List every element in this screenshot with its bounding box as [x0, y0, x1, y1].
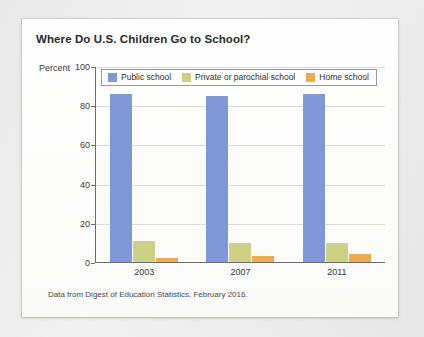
bar [206, 96, 228, 262]
bar [133, 241, 155, 262]
y-tick-label: 40 [80, 180, 90, 190]
chart-card: Where Do U.S. Children Go to School? Per… [22, 19, 398, 317]
chart-title: Where Do U.S. Children Go to School? [36, 33, 250, 45]
y-tick-label: 20 [80, 219, 90, 229]
bar [156, 258, 178, 262]
y-axis-title: Percent [39, 63, 70, 73]
legend-swatch-icon [182, 73, 191, 82]
y-tick-mark [91, 263, 95, 264]
bar [303, 94, 325, 262]
legend-item: Private or parochial school [182, 72, 295, 82]
legend-item: Public school [108, 72, 171, 82]
bar [252, 256, 274, 262]
bar [229, 243, 251, 263]
legend-label: Private or parochial school [195, 72, 295, 82]
y-tick-label: 80 [80, 101, 90, 111]
y-tick-mark [91, 106, 95, 107]
y-tick-mark [91, 224, 95, 225]
y-tick-mark [91, 67, 95, 68]
bar-group: 2003 [96, 67, 192, 262]
chart-legend: Public schoolPrivate or parochial school… [101, 69, 377, 86]
y-tick-label: 60 [80, 140, 90, 150]
y-tick-mark [91, 185, 95, 186]
x-tick-label: 2007 [230, 267, 250, 277]
legend-swatch-icon [306, 73, 315, 82]
bar [110, 94, 132, 262]
x-tick-label: 2003 [134, 267, 154, 277]
x-tick-label: 2011 [327, 267, 346, 277]
legend-swatch-icon [108, 73, 117, 82]
y-tick-mark [91, 145, 95, 146]
x-axis-line [95, 262, 385, 263]
y-tick-label: 0 [85, 258, 90, 268]
y-tick-label: 100 [75, 62, 90, 72]
bar-groups: 200320072011 [96, 67, 385, 262]
bar [326, 243, 348, 263]
bar [349, 254, 371, 262]
bar-group: 2011 [289, 67, 385, 262]
legend-label: Home school [319, 72, 369, 82]
legend-item: Home school [306, 72, 369, 82]
plot-area: 020406080100 200320072011 [95, 67, 385, 263]
source-note: Data from Digest of Education Statistics… [48, 290, 248, 299]
legend-label: Public school [121, 72, 171, 82]
bar-group: 2007 [192, 67, 288, 262]
